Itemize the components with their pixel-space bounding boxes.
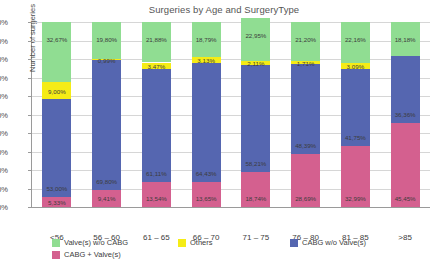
bar-stack[interactable]: 13,54%61,11%3,47%21,88% xyxy=(142,22,171,207)
bar-value-label: 21,20% xyxy=(291,36,320,43)
y-axis-tick xyxy=(28,22,32,23)
legend-swatch-icon xyxy=(52,251,60,259)
y-axis-tick-label: 0% xyxy=(0,203,8,212)
bar-segment[interactable] xyxy=(42,99,71,197)
y-axis-tick xyxy=(28,170,32,171)
y-axis-tick-label: 80% xyxy=(0,55,8,64)
bar-value-label: 22,16% xyxy=(341,36,370,43)
bar-value-label: 18,74% xyxy=(241,195,270,202)
legend-label: CABG w/o Valve(s) xyxy=(302,238,366,247)
bar-value-label: 3,13% xyxy=(183,57,230,64)
y-axis-tick xyxy=(28,78,32,79)
bar-stack[interactable]: 28,69%48,39%1,71%21,20% xyxy=(291,22,320,207)
bar-segment[interactable] xyxy=(291,64,320,154)
bar-value-label: 19,80% xyxy=(92,36,121,43)
y-axis-tick xyxy=(28,189,32,190)
legend-swatch-icon xyxy=(290,239,298,247)
y-axis-tick-label: 60% xyxy=(0,92,8,101)
chart-legend: Valve(s) w/o CABGOthersCABG w/o Valve(s)… xyxy=(0,236,448,270)
bar-value-label: 36,36% xyxy=(391,111,420,118)
y-axis-tick-label: 100% xyxy=(0,18,8,27)
legend-label: Valve(s) w/o CABG xyxy=(64,238,128,247)
bar-value-label: 5,33% xyxy=(42,199,71,206)
y-axis-tick xyxy=(28,41,32,42)
y-axis-tick xyxy=(28,96,32,97)
bar-segment[interactable] xyxy=(241,65,270,173)
bar-segment[interactable] xyxy=(42,22,71,82)
bar-value-label: 13,54% xyxy=(142,195,171,202)
legend-swatch-icon xyxy=(52,239,60,247)
bar-stack[interactable]: 13,65%64,43%3,13%18,79% xyxy=(192,22,221,207)
chart-title: Surgeries by Age and SurgeryType xyxy=(0,4,448,15)
y-axis-tick-label: 90% xyxy=(0,37,8,46)
bar-segment[interactable] xyxy=(192,63,221,182)
y-axis-tick-label: 10% xyxy=(0,185,8,194)
bar-stack[interactable]: 32,99%41,75%3,09%22,16% xyxy=(341,22,370,207)
bar-value-label: 53,00% xyxy=(42,185,71,192)
bar-stack[interactable]: 18,74%58,21%2,11%22,95% xyxy=(241,22,270,207)
y-axis-tick-label: 50% xyxy=(0,111,8,120)
bar-segment[interactable] xyxy=(241,18,270,60)
chart-container: Surgeries by Age and SurgeryType Number … xyxy=(0,0,448,272)
bar-segment[interactable] xyxy=(92,60,121,189)
legend-item[interactable]: CABG w/o Valve(s) xyxy=(290,238,366,247)
bar-segment[interactable] xyxy=(142,69,171,182)
y-axis-tick xyxy=(28,152,32,153)
legend-swatch-icon xyxy=(178,239,186,247)
y-axis-title: Number of surgeries xyxy=(28,4,37,72)
bar-stack[interactable]: 45,45%36,36%18,18% xyxy=(391,22,420,207)
legend-label: CABG + Valve(s) xyxy=(64,250,121,259)
bar-value-label: 64,43% xyxy=(192,170,221,177)
y-axis-tick-label: 70% xyxy=(0,74,8,83)
bar-value-label: 41,75% xyxy=(341,134,370,141)
legend-label: Others xyxy=(190,238,213,247)
bar-value-label: 32,99% xyxy=(341,195,370,202)
bar-value-label: 58,21% xyxy=(241,160,270,167)
bar-value-label: 13,65% xyxy=(192,195,221,202)
legend-item[interactable]: CABG + Valve(s) xyxy=(52,250,121,259)
bar-value-label: 48,39% xyxy=(291,142,320,149)
bar-stack[interactable]: 5,33%53,00%9,00%32,67% xyxy=(42,22,71,207)
bar-value-label: 3,09% xyxy=(332,63,379,70)
bar-value-label: 18,18% xyxy=(391,36,420,43)
bar-value-label: 9,00% xyxy=(33,88,80,95)
bar-value-label: 61,11% xyxy=(142,170,171,177)
plot-area: Number of surgeries 0%10%20%30%40%50%60%… xyxy=(31,22,430,208)
bar-value-label: 69,80% xyxy=(92,178,121,185)
y-axis-tick xyxy=(28,133,32,134)
y-axis-tick xyxy=(28,207,32,208)
bar-value-label: 28,69% xyxy=(291,195,320,202)
bar-stack[interactable]: 9,41%69,80%0,99%19,80% xyxy=(92,22,121,207)
y-axis-tick-label: 40% xyxy=(0,129,8,138)
legend-item[interactable]: Others xyxy=(178,238,213,247)
bar-value-label: 45,45% xyxy=(391,195,420,202)
bar-value-label: 3,47% xyxy=(133,63,180,70)
bar-value-label: 22,95% xyxy=(241,32,270,39)
y-axis-tick-label: 20% xyxy=(0,166,8,175)
y-axis-tick xyxy=(28,115,32,116)
bar-value-label: 18,79% xyxy=(192,36,221,43)
bar-value-label: 9,41% xyxy=(92,195,121,202)
y-axis-tick-label: 30% xyxy=(0,148,8,157)
bar-value-label: 32,67% xyxy=(42,36,71,43)
legend-item[interactable]: Valve(s) w/o CABG xyxy=(52,238,128,247)
bar-value-label: 21,88% xyxy=(142,36,171,43)
y-axis-tick xyxy=(28,59,32,60)
